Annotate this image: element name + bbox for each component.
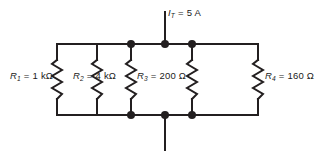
r1-equals: = xyxy=(24,70,30,81)
r4-value: 160 Ω xyxy=(288,70,315,81)
r4-resistor-symbol xyxy=(253,60,263,99)
r2-symbol: R xyxy=(73,70,80,81)
junction-dot-bottom-right xyxy=(188,111,196,119)
resistor-label-r1: R1 = 1 kΩ xyxy=(10,71,53,81)
r4-symbol: R xyxy=(265,70,272,81)
r1-value: 1 kΩ xyxy=(33,70,54,81)
resistor-label-r3: R3 = 200 Ω xyxy=(137,71,186,81)
r3-value: 200 Ω xyxy=(160,70,187,81)
source-value: 5 A xyxy=(187,7,201,18)
junction-dot-top-left xyxy=(127,40,135,48)
resistor-label-r4: R4 = 160 Ω xyxy=(265,71,314,81)
junction-dot-bottom-center xyxy=(161,111,169,119)
r3-resistor-symbol xyxy=(126,60,136,99)
r3-subscript: 3 xyxy=(144,75,148,82)
junction-dot-top-right xyxy=(188,40,196,48)
r2-equals: = xyxy=(87,70,93,81)
r1-resistor-symbol xyxy=(52,60,62,99)
r4a-resistor-symbol xyxy=(187,60,197,99)
circuit-diagram: R1 = 1 kΩ R2 = 4 kΩ R3 = 200 Ω R4 = 160 … xyxy=(0,0,325,161)
junction-dot-top-center xyxy=(161,40,169,48)
source-equals: = xyxy=(178,7,184,18)
r4-subscript: 4 xyxy=(272,75,276,82)
r4-equals: = xyxy=(279,70,285,81)
source-current-label: IT = 5 A xyxy=(168,8,201,18)
source-subscript: T xyxy=(171,12,175,19)
junction-dot-bottom-left xyxy=(127,111,135,119)
r2-value: 4 kΩ xyxy=(96,70,117,81)
resistor-label-r2: R2 = 4 kΩ xyxy=(73,71,116,81)
r3-equals: = xyxy=(151,70,157,81)
r1-symbol: R xyxy=(10,70,17,81)
r2-subscript: 2 xyxy=(80,75,84,82)
r3-symbol: R xyxy=(137,70,144,81)
r1-subscript: 1 xyxy=(17,75,21,82)
